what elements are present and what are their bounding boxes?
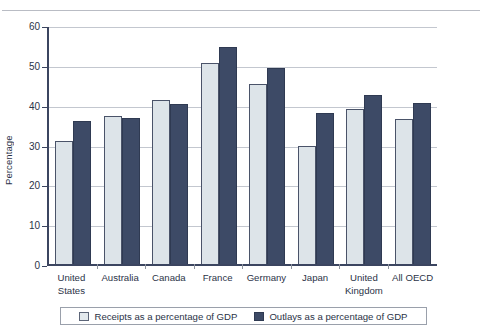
bar-receipts[interactable] [55, 141, 73, 264]
bar-group [243, 27, 292, 264]
bar-receipts[interactable] [346, 109, 364, 264]
x-axis-label-line: Germany [242, 272, 291, 285]
bar-receipts[interactable] [249, 84, 267, 264]
bar-outlays[interactable] [170, 104, 188, 264]
legend-label: Outlays as a percentage of GDP [269, 311, 407, 322]
x-axis-label: Germany [242, 272, 291, 302]
x-axis-label: UnitedStates [47, 272, 96, 302]
x-axis-label-line: United [340, 272, 389, 285]
bar-receipts[interactable] [104, 116, 122, 264]
bar-receipts[interactable] [201, 63, 219, 264]
x-axis-label: All OECD [388, 272, 437, 302]
x-axis-label-line: United [47, 272, 96, 285]
legend-entry[interactable]: Outlays as a percentage of GDP [254, 311, 407, 322]
x-axis-tick-mark [194, 264, 195, 269]
bar-receipts[interactable] [298, 146, 316, 264]
x-axis-label: UnitedKingdom [340, 272, 389, 302]
x-axis-label: Australia [96, 272, 145, 302]
bar-receipts[interactable] [395, 119, 413, 264]
x-axis-label: Canada [145, 272, 194, 302]
x-axis-tick-mark [97, 264, 98, 269]
bar-receipts[interactable] [152, 100, 170, 265]
bar-outlays[interactable] [316, 113, 334, 264]
y-axis-title: Percentage [0, 105, 16, 215]
bar-outlays[interactable] [413, 103, 431, 264]
bar-outlays[interactable] [364, 95, 382, 264]
x-axis-tick-mark [388, 264, 389, 269]
x-axis-tick-mark [339, 264, 340, 269]
x-axis-label-group: UnitedStatesAustraliaCanadaFranceGermany… [47, 272, 437, 302]
x-axis-label: France [193, 272, 242, 302]
y-axis-tick-mark [42, 266, 47, 267]
bar-outlays[interactable] [73, 121, 91, 264]
receipts-swatch [79, 312, 89, 321]
bar-group [98, 27, 147, 264]
plot-area [47, 27, 437, 266]
bar-group [49, 27, 98, 264]
x-axis-tick-mark [145, 264, 146, 269]
bar-group [146, 27, 195, 264]
x-axis-label-line: France [193, 272, 242, 285]
x-axis-label: Japan [291, 272, 340, 302]
legend-entry[interactable]: Receipts as a percentage of GDP [79, 311, 237, 322]
outlays-swatch [254, 312, 264, 321]
x-axis-tick-mark [291, 264, 292, 269]
bar-group [292, 27, 341, 264]
bar-outlays[interactable] [122, 118, 140, 264]
x-axis-label-line: Australia [96, 272, 145, 285]
bar-group [195, 27, 244, 264]
chart-legend: Receipts as a percentage of GDPOutlays a… [60, 307, 427, 325]
top-divider-rule [2, 10, 480, 11]
bar-group-container [49, 27, 437, 264]
x-axis-label-line: Canada [145, 272, 194, 285]
bar-outlays[interactable] [219, 47, 237, 264]
legend-label: Receipts as a percentage of GDP [94, 311, 237, 322]
bar-group [389, 27, 438, 264]
bar-group [340, 27, 389, 264]
x-axis-label-line: All OECD [388, 272, 437, 285]
x-axis-label-line: Japan [291, 272, 340, 285]
x-axis-tick-mark [242, 264, 243, 269]
x-axis-label-line: States [47, 285, 96, 298]
bar-outlays[interactable] [267, 68, 285, 264]
bar-chart-figure: Percentage 6050403020100 UnitedStatesAus… [0, 0, 483, 329]
x-axis-label-line: Kingdom [340, 285, 389, 298]
